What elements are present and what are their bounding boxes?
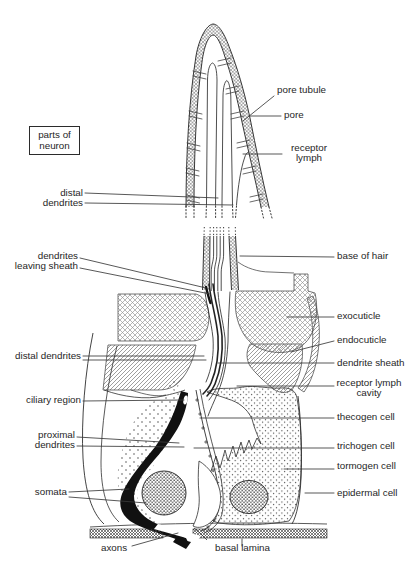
epidermal-outline-left-outer xyxy=(82,333,104,524)
label-axons: axons xyxy=(101,543,127,553)
legend-line: parts xyxy=(38,129,60,140)
label-thecogen-cell: thecogen cell xyxy=(337,412,395,422)
label-dendrite-sheath: dendrite sheath xyxy=(337,358,405,368)
label-somata: somata xyxy=(17,487,67,497)
label-distal-dendrites: distal dendrites xyxy=(11,351,81,361)
label-tormogen-cell: tormogen cell xyxy=(337,461,396,471)
trichogen-outline-2 xyxy=(131,390,166,396)
diagram-artwork xyxy=(0,0,417,566)
tormogen-nucleus xyxy=(230,481,268,514)
exocuticle-right xyxy=(235,274,316,353)
socket-rim-line xyxy=(238,262,294,273)
section-cut-dotted-lines xyxy=(186,206,272,218)
label-ciliary-region: ciliary region xyxy=(11,395,81,405)
hair-base xyxy=(203,227,295,291)
label-pore-tubule: pore tubule xyxy=(277,85,326,95)
soma-nucleus xyxy=(142,471,186,515)
leader-dendrites-leaving-sheath-2 xyxy=(80,268,210,294)
label-endocuticle: endocuticle xyxy=(337,335,387,345)
basal-lamina xyxy=(90,529,327,538)
leader-base-of-hair xyxy=(240,256,334,257)
label-receptor-lymph: receptor lymph xyxy=(284,143,334,163)
label-exocuticle: exocuticle xyxy=(337,311,381,321)
leader-distal-dendrites-top-1 xyxy=(85,193,218,198)
leader-proximal-dendrites-2 xyxy=(77,446,184,447)
label-trichogen-cell: trichogen cell xyxy=(337,441,395,451)
label-pore: pore xyxy=(284,110,304,120)
label-receptor-lymph-cavity: receptor lymph cavity xyxy=(334,378,404,398)
label-dendrites-leaving-sheath: dendrites leaving sheath xyxy=(8,251,78,271)
legend-box-parts-of-neuron: parts of neuron xyxy=(29,126,80,155)
hair-shaft xyxy=(186,24,272,218)
label-proximal-dendrites: proximal dendrites xyxy=(15,430,75,450)
label-base-of-hair: base of hair xyxy=(337,251,388,261)
dendrites-in-base xyxy=(211,236,223,291)
cuticle xyxy=(103,274,319,392)
distal-dendrites-shaft xyxy=(207,63,249,205)
label-epidermal-cell: epidermal cell xyxy=(337,488,397,498)
label-distal-dendrites-top: distal dendrites xyxy=(23,188,83,208)
legend-line: of xyxy=(63,129,71,140)
label-basal-lamina: basal lamina xyxy=(215,543,270,553)
endocuticle-left xyxy=(103,345,196,390)
exocuticle-left xyxy=(118,294,209,341)
leader-dendrites-leaving-sheath-1 xyxy=(80,258,206,288)
legend-line: neuron xyxy=(39,140,70,151)
figure-canvas: parts of neuron pore tubule pore recepto… xyxy=(0,0,417,566)
